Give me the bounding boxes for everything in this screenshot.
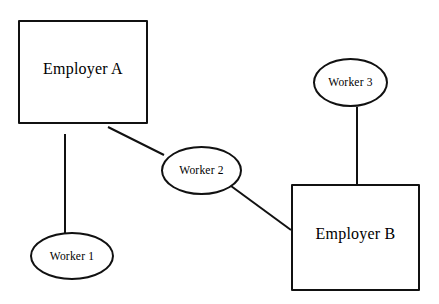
node-worker-2-label: Worker 2 [179, 164, 223, 176]
node-worker-1-label: Worker 1 [50, 250, 94, 262]
node-worker-1[interactable]: Worker 1 [30, 232, 114, 280]
node-worker-3[interactable]: Worker 3 [313, 58, 388, 107]
edge-employer-a-worker-2 [108, 127, 164, 155]
node-employer-b-label: Employer B [316, 226, 396, 243]
node-employer-a-label: Employer A [43, 61, 123, 78]
edge-worker-2-employer-b [231, 186, 291, 230]
node-employer-a[interactable]: Employer A [18, 20, 148, 124]
diagram-canvas: Employer A Employer B Worker 1 Worker 2 … [0, 0, 439, 304]
node-worker-3-label: Worker 3 [328, 76, 372, 88]
node-employer-b[interactable]: Employer B [291, 184, 420, 291]
node-worker-2[interactable]: Worker 2 [161, 146, 242, 195]
